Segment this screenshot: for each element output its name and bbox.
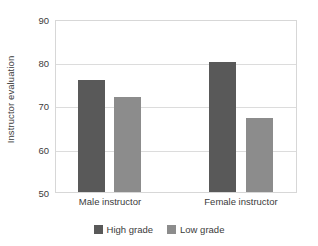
legend-label-high-grade: High grade: [107, 224, 153, 235]
bar-female-high-grade[interactable]: [209, 62, 236, 192]
y-axis-title-text: Instructor evaluation: [6, 55, 17, 143]
legend-swatch-low-grade-icon: [167, 225, 176, 234]
x-axis-tick-labels: Male instructor Female instructor: [55, 196, 297, 214]
legend-item-low-grade[interactable]: Low grade: [167, 224, 224, 235]
y-axis-title: Instructor evaluation: [2, 0, 20, 198]
legend-swatch-high-grade-icon: [94, 225, 103, 234]
y-tick-label-90: 90: [38, 15, 49, 26]
y-tick-label-50: 50: [38, 188, 49, 199]
x-tick-label-female: Female instructor: [204, 196, 277, 207]
bar-male-high-grade[interactable]: [78, 80, 105, 192]
y-axis-tick-labels: 90 80 70 60 50: [20, 0, 52, 200]
bar-chart: Instructor evaluation 90 80 70 60 50 Mal…: [0, 0, 318, 246]
y-tick-label-70: 70: [38, 101, 49, 112]
x-tick-label-male: Male instructor: [79, 196, 141, 207]
legend-item-high-grade[interactable]: High grade: [94, 224, 153, 235]
bar-female-low-grade[interactable]: [246, 118, 273, 192]
bars-layer: [56, 21, 296, 192]
legend: High grade Low grade: [0, 224, 318, 235]
plot-area: [55, 20, 297, 193]
y-tick-label-60: 60: [38, 145, 49, 156]
bar-male-low-grade[interactable]: [114, 97, 141, 192]
y-tick-label-80: 80: [38, 58, 49, 69]
legend-label-low-grade: Low grade: [180, 224, 224, 235]
